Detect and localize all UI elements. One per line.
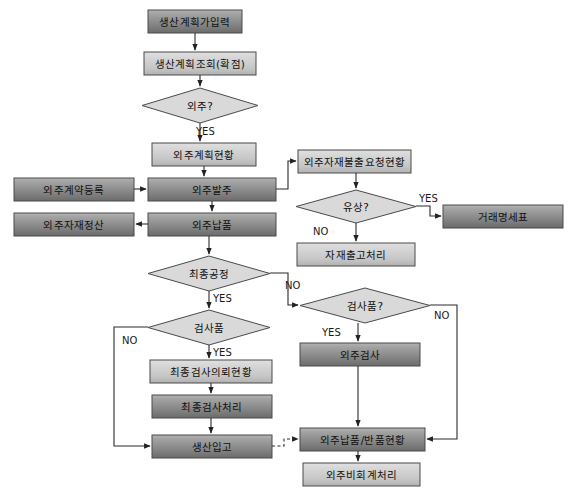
decision-n15[interactable]: [300, 288, 430, 323]
process-n9[interactable]: [298, 150, 411, 173]
edge-inspect-item-q-no-to-delivery-return-status: [427, 305, 457, 439]
edge-production-receipt-to-delivery-return-status: [272, 439, 298, 446]
process-n21[interactable]: [303, 463, 420, 486]
process-n19[interactable]: [152, 435, 272, 458]
process-n18[interactable]: [152, 395, 272, 418]
process-n12[interactable]: [297, 243, 415, 266]
edge-paid-yes-to-invoice: [416, 206, 441, 216]
decision-n3[interactable]: [142, 88, 258, 123]
process-n6[interactable]: [148, 178, 276, 201]
decision-n14[interactable]: [148, 310, 270, 345]
process-n7[interactable]: [14, 213, 134, 236]
decision-n10[interactable]: [296, 190, 416, 223]
edge-final-process-no-to-inspect-item-q: [270, 273, 298, 305]
decision-n13[interactable]: [148, 256, 270, 291]
process-n5[interactable]: [14, 178, 134, 201]
edge-inspect-item-no-to-production-receipt: [114, 327, 150, 446]
process-n4[interactable]: [152, 143, 256, 166]
process-n2[interactable]: [144, 52, 256, 75]
edge-order-to-material-request: [276, 161, 296, 189]
process-n17[interactable]: [150, 360, 272, 383]
process-n20[interactable]: [300, 428, 425, 451]
process-n11[interactable]: [443, 205, 563, 228]
flowchart-canvas: [0, 0, 575, 500]
process-n1[interactable]: [148, 10, 242, 33]
process-n16[interactable]: [300, 343, 420, 366]
process-n8[interactable]: [148, 213, 276, 236]
